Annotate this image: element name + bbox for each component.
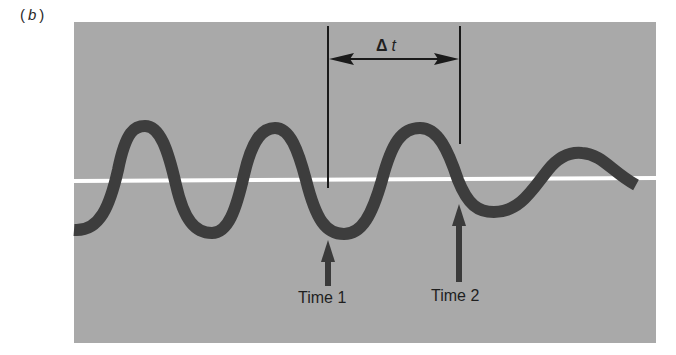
time-1-label: Time 1	[298, 289, 346, 306]
time-1-arrow-icon	[321, 240, 335, 286]
baseline	[74, 178, 656, 181]
wave-diagram: Δt Time 1 Time 2	[0, 0, 676, 355]
time-2-arrow-icon	[452, 204, 466, 282]
double-arrow-icon	[329, 53, 459, 65]
interval-label: Δt	[376, 37, 397, 54]
time-2-label: Time 2	[431, 287, 479, 304]
